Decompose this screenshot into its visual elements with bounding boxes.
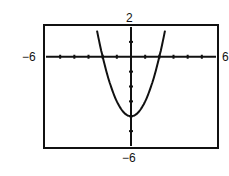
graph-window [0,0,229,176]
axes [46,27,216,146]
